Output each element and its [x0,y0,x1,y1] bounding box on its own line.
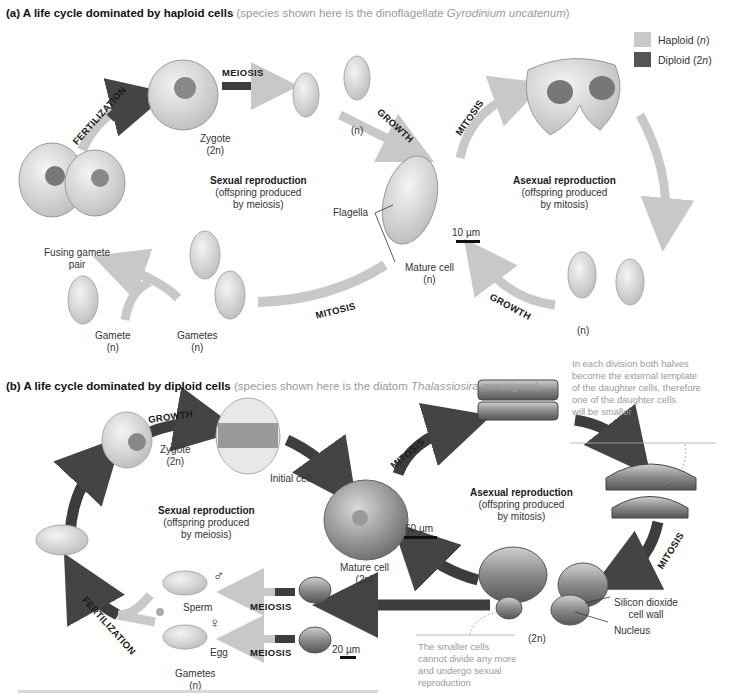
panel-a-heading: (a) A life cycle dominated by haploid ce… [6,7,570,19]
silicon-wall-label: Silicon dioxidecell wall [614,597,678,621]
scale-bar-a [456,240,480,243]
diploid-swatch [634,52,651,67]
meiosis-arrow-1 [275,588,295,596]
haploid-swatch [634,32,651,47]
gametes-label-a: Gametes(n) [177,330,218,354]
gamete-cell [68,276,98,324]
return-to-mature-arrow [415,545,478,580]
asexual-reproduction-a: Asexual reproduction(offspring producedb… [513,175,616,211]
small-cells-ploidy: (2n) [528,633,546,645]
nucleus-label: Nucleus [614,625,650,637]
meiosis-arrow [222,82,252,90]
initial-cell-label: Initial cell [270,473,311,485]
meiosis-label-b-2: MEIOSIS [250,647,292,658]
fusing-pair-label: Fusing gametepair [44,247,110,271]
mature-cell-label-b: Mature cell(2n) [340,562,389,586]
scale-bar-60 [404,536,437,539]
legend: Haploid (n) Diploid (2n) [634,32,712,72]
cell-small [496,597,522,619]
mitosis-arrow-b-right [620,522,658,575]
gametes-label-b: Gametes(n) [175,668,216,692]
meiosis-arrow-2 [275,635,295,643]
meiosis-cell [299,577,331,603]
scale-label-60: 60 µm [405,523,433,535]
flagella-label: Flagella [333,207,368,219]
return-arrow-right [640,115,666,225]
cell-stack-large [479,547,547,603]
zygote-label-a: Zygote(2n) [200,133,231,157]
sperm-producing-cell [163,571,207,595]
sperm-label: Sperm [183,602,212,614]
fusing-diatom [36,525,88,555]
haploid-label-top: (n) [351,125,363,137]
scale-bar-20 [340,656,356,659]
haploid-cell [293,73,319,117]
mature-cell-label-a: Mature cell(n) [405,262,454,286]
asexual-reproduction-b: Asexual reproduction(offspring producedb… [470,487,573,523]
male-symbol: ♂ [213,570,224,582]
fusion-to-zygote-arrow [70,460,100,535]
legend-diploid: Diploid (2n) [634,52,712,67]
meiosis-label-b-1: MEIOSIS [250,601,292,612]
scale-label-a: 10 µm [452,227,480,239]
cell-silicon-wall [551,595,589,625]
meiosis-cell [299,627,331,653]
division-arrow-right [575,420,630,450]
sexual-reproduction-a: Sexual reproduction(offspring producedby… [210,175,307,211]
note-smaller-cells: The smaller cellscannot divide any morea… [418,641,516,689]
legend-haploid: Haploid (n) [634,32,712,47]
offspring-label-a: (n) [577,325,589,337]
haploid-cell [344,56,370,100]
growth-arrow-b [148,424,208,433]
meiosis-label-a: MEIOSIS [222,67,264,78]
gamete-label: Gamete(n) [95,330,131,354]
panel-b-heading: (b) A life cycle dominated by diploid ce… [6,380,539,392]
daughter-half-small [612,497,688,519]
figure-caption-truncated [18,690,378,693]
gamete-cell [190,231,220,279]
sexual-reproduction-b: Sexual reproduction(offspring producedby… [158,505,255,541]
gamete-cell [215,271,245,319]
note-division: In each division both halvesbecome the e… [572,358,701,418]
egg-label: Egg [210,647,228,659]
zygote-label-b: Zygote(2n) [160,444,191,468]
scale-label-20: 20 µm [332,644,360,656]
egg-cell [163,625,207,649]
offspring-cell [616,259,644,305]
female-symbol: ♀ [209,617,220,629]
mitosis-arrow-bottom [258,265,385,302]
offspring-cell [568,252,596,298]
